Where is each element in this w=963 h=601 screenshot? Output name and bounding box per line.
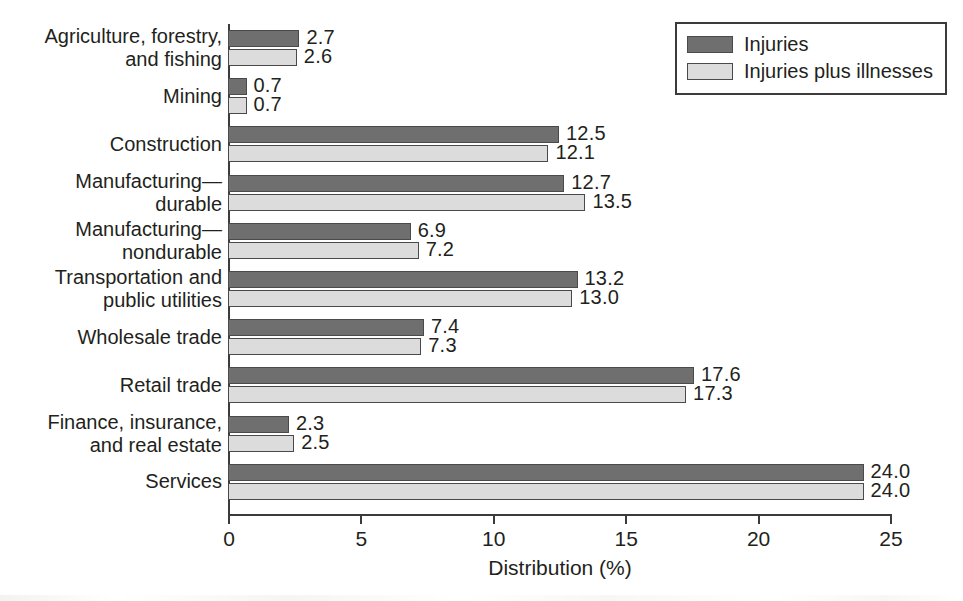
bar-group: 17.617.3 [228, 367, 890, 405]
bar-value-label: 13.0 [579, 289, 619, 306]
category-label: Manufacturing— nondurable [0, 218, 222, 264]
bar-value-label: 17.6 [701, 366, 741, 383]
bar-value-label: 12.1 [555, 144, 595, 161]
x-tick-label: 15 [615, 527, 638, 551]
x-tick-label: 25 [879, 527, 902, 551]
x-tick-mark [228, 514, 230, 524]
bar [228, 271, 578, 288]
bar [228, 416, 289, 433]
bar-value-label: 2.5 [301, 434, 329, 451]
bar-group: 7.47.3 [228, 319, 890, 357]
category-label: Construction [0, 133, 222, 156]
bar-group: 6.97.2 [228, 223, 890, 261]
bar [228, 78, 247, 95]
bar [228, 175, 564, 192]
bar-group: 13.213.0 [228, 271, 890, 309]
bar-value-label: 13.5 [592, 193, 632, 210]
x-tick-label: 0 [223, 527, 235, 551]
category-label: Wholesale trade [0, 326, 222, 349]
bar-value-label: 6.9 [418, 222, 446, 239]
bar-value-label: 2.7 [306, 29, 334, 46]
x-axis-line [228, 514, 892, 516]
x-tick-mark [360, 514, 362, 524]
legend-label: Injuries [744, 33, 808, 56]
x-tick-label: 20 [747, 527, 770, 551]
bar-value-label: 0.7 [254, 77, 282, 94]
bar-value-label: 7.4 [431, 318, 459, 335]
legend: InjuriesInjuries plus illnesses [675, 22, 947, 95]
bar-value-label: 12.5 [566, 125, 606, 142]
bar [228, 338, 421, 355]
bar [228, 30, 299, 47]
legend-swatch [687, 63, 733, 80]
bar [228, 367, 694, 384]
category-label: Finance, insurance, and real estate [0, 411, 222, 457]
legend-item: Injuries [687, 31, 933, 58]
x-tick-mark [625, 514, 627, 524]
bar [228, 97, 247, 114]
bar-group: 12.713.5 [228, 175, 890, 213]
bar-value-label: 7.2 [426, 241, 454, 258]
bar [228, 126, 559, 143]
bar [228, 145, 548, 162]
legend-swatch [687, 36, 733, 53]
x-tick-label: 10 [482, 527, 505, 551]
bar-value-label: 24.0 [871, 482, 911, 499]
bar [228, 242, 419, 259]
bar [228, 49, 297, 66]
category-label: Services [0, 470, 222, 493]
category-label: Mining [0, 85, 222, 108]
bar-value-label: 2.6 [304, 48, 332, 65]
bar-group: 12.512.1 [228, 126, 890, 164]
bar-chart-figure: Agriculture, forestry, and fishingMining… [0, 0, 963, 601]
bar-value-label: 12.7 [571, 174, 611, 191]
bar [228, 194, 585, 211]
bar-group: 2.32.5 [228, 416, 890, 454]
bar-value-label: 0.7 [254, 96, 282, 113]
bar [228, 435, 294, 452]
bar-group: 24.024.0 [228, 464, 890, 502]
x-tick-mark [493, 514, 495, 524]
category-label: Retail trade [0, 374, 222, 397]
bar-value-label: 13.2 [585, 270, 625, 287]
category-axis-labels: Agriculture, forestry, and fishingMining… [0, 26, 222, 514]
plot-area: 2.72.60.70.712.512.112.713.56.97.213.213… [228, 26, 890, 514]
bar [228, 223, 411, 240]
bar-value-label: 2.3 [296, 415, 324, 432]
bar [228, 386, 686, 403]
x-axis-title: Distribution (%) [228, 556, 892, 580]
bar [228, 319, 424, 336]
category-label: Manufacturing— durable [0, 170, 222, 216]
category-label: Transportation and public utilities [0, 266, 222, 312]
bar-value-label: 7.3 [428, 337, 456, 354]
bar [228, 290, 572, 307]
scan-artifact [0, 595, 963, 601]
x-tick-mark [758, 514, 760, 524]
category-label: Agriculture, forestry, and fishing [0, 25, 222, 71]
x-tick-mark [890, 514, 892, 524]
bar [228, 464, 864, 481]
bar [228, 483, 864, 500]
bar-value-label: 17.3 [693, 385, 733, 402]
legend-item: Injuries plus illnesses [687, 58, 933, 85]
bar-value-label: 24.0 [871, 463, 911, 480]
x-tick-label: 5 [356, 527, 368, 551]
legend-label: Injuries plus illnesses [744, 60, 933, 83]
